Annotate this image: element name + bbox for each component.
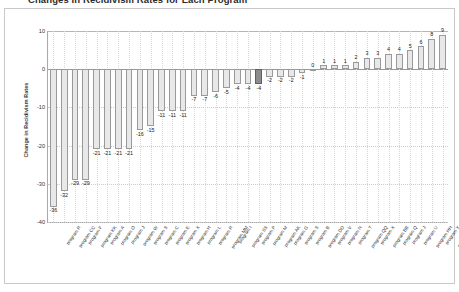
bar-value-label: 8 — [430, 31, 433, 37]
bar[interactable] — [169, 69, 176, 111]
bar-value-label: 2 — [355, 54, 358, 60]
vertical-gridline — [194, 31, 195, 222]
bar[interactable] — [342, 65, 349, 69]
bar-value-label: -15 — [147, 127, 155, 133]
vertical-gridline — [205, 31, 206, 222]
bar-value-label: -36 — [49, 207, 57, 213]
bar[interactable] — [255, 69, 262, 84]
bar[interactable] — [407, 50, 414, 69]
bar[interactable] — [50, 69, 57, 207]
bar-value-label: 4 — [387, 46, 390, 52]
bar-value-label: -21 — [93, 150, 101, 156]
bar[interactable] — [115, 69, 122, 149]
bar[interactable] — [82, 69, 89, 180]
bar-value-label: -2 — [278, 77, 283, 83]
slide-frame: Change in Recidivism Rates 100-10-20-30-… — [4, 8, 455, 284]
chart-screenshot: Changes in Recidivism Rates for Each Pro… — [0, 0, 459, 292]
bar[interactable] — [158, 69, 165, 111]
bar-value-label: -6 — [213, 93, 218, 99]
bar-value-label: 3 — [376, 50, 379, 56]
bar[interactable] — [331, 65, 338, 69]
bar[interactable] — [385, 54, 392, 69]
bar[interactable] — [320, 65, 327, 69]
bar-value-label: -11 — [179, 112, 186, 118]
bar[interactable] — [428, 39, 435, 70]
bar[interactable] — [396, 54, 403, 69]
bar-value-label: -29 — [82, 180, 90, 186]
bar[interactable] — [364, 58, 371, 69]
bar-value-label: 4 — [398, 46, 401, 52]
bar[interactable] — [201, 69, 208, 96]
bar-value-label: -21 — [114, 150, 122, 156]
bar[interactable] — [223, 69, 230, 88]
bar-value-label: 9 — [441, 27, 444, 33]
bar[interactable] — [212, 69, 219, 92]
bar-value-label: -21 — [104, 150, 112, 156]
vertical-gridline — [162, 31, 163, 222]
vertical-gridline — [259, 31, 260, 222]
bar-value-label: 3 — [365, 50, 368, 56]
vertical-gridline — [216, 31, 217, 222]
bar[interactable] — [288, 69, 295, 77]
bar-value-label: 1 — [333, 58, 336, 64]
bar[interactable] — [299, 69, 306, 73]
vertical-gridline — [291, 31, 292, 222]
bar-value-label: -7 — [192, 96, 197, 102]
y-tick-label: -10 — [19, 104, 45, 110]
bar-value-label: 6 — [419, 39, 422, 45]
y-tick-label: -40 — [19, 219, 45, 225]
vertical-gridline — [302, 31, 303, 222]
bar-value-label: 0 — [311, 62, 314, 68]
bar-value-label: -4 — [256, 85, 261, 91]
bar[interactable] — [191, 69, 198, 96]
bar-value-label: -16 — [136, 131, 144, 137]
bar[interactable] — [137, 69, 144, 130]
bar[interactable] — [61, 69, 68, 191]
bar[interactable] — [418, 46, 425, 69]
bar-value-label: 1 — [322, 58, 325, 64]
bar[interactable] — [104, 69, 111, 149]
bar[interactable] — [245, 69, 252, 84]
plot-area: -36-32-29-29-21-21-21-21-16-15-11-11-11-… — [47, 31, 448, 223]
bar-value-label: -4 — [246, 85, 251, 91]
bar-value-label: -7 — [202, 96, 207, 102]
bar[interactable] — [266, 69, 273, 77]
vertical-gridline — [248, 31, 249, 222]
bar[interactable] — [126, 69, 133, 149]
bar-value-label: -2 — [289, 77, 294, 83]
bar[interactable] — [277, 69, 284, 77]
bar[interactable] — [353, 62, 360, 70]
vertical-gridline — [270, 31, 271, 222]
bar[interactable] — [310, 69, 317, 71]
y-tick-label: 0 — [19, 66, 45, 72]
bar-value-label: -1 — [300, 74, 305, 80]
vertical-gridline — [226, 31, 227, 222]
bar-value-label: -2 — [267, 77, 272, 83]
y-tick-label: -30 — [19, 181, 45, 187]
chart-title: Changes in Recidivism Rates for Each Pro… — [28, 0, 247, 5]
bar-value-label: -32 — [60, 192, 68, 198]
bar[interactable] — [93, 69, 100, 149]
bar-value-label: -4 — [235, 85, 240, 91]
bar-value-label: -29 — [71, 180, 79, 186]
y-axis-ticks: 100-10-20-30-40 — [19, 9, 45, 285]
bar[interactable] — [234, 69, 241, 84]
bar-value-label: 5 — [409, 43, 412, 49]
vertical-gridline — [172, 31, 173, 222]
bar-value-label: 1 — [344, 58, 347, 64]
bar-value-label: -11 — [158, 112, 165, 118]
vertical-gridline — [280, 31, 281, 222]
bar-value-label: -5 — [224, 89, 229, 95]
y-tick-label: -20 — [19, 143, 45, 149]
bar[interactable] — [72, 69, 79, 180]
vertical-gridline — [237, 31, 238, 222]
chart-area: Change in Recidivism Rates 100-10-20-30-… — [5, 9, 456, 285]
y-tick-label: 10 — [19, 28, 45, 34]
bar-value-label: -21 — [125, 150, 133, 156]
bar-value-label: -11 — [169, 112, 176, 118]
bar[interactable] — [180, 69, 187, 111]
bar[interactable] — [439, 35, 446, 69]
bar[interactable] — [374, 58, 381, 69]
vertical-gridline — [313, 31, 314, 222]
bar[interactable] — [147, 69, 154, 126]
